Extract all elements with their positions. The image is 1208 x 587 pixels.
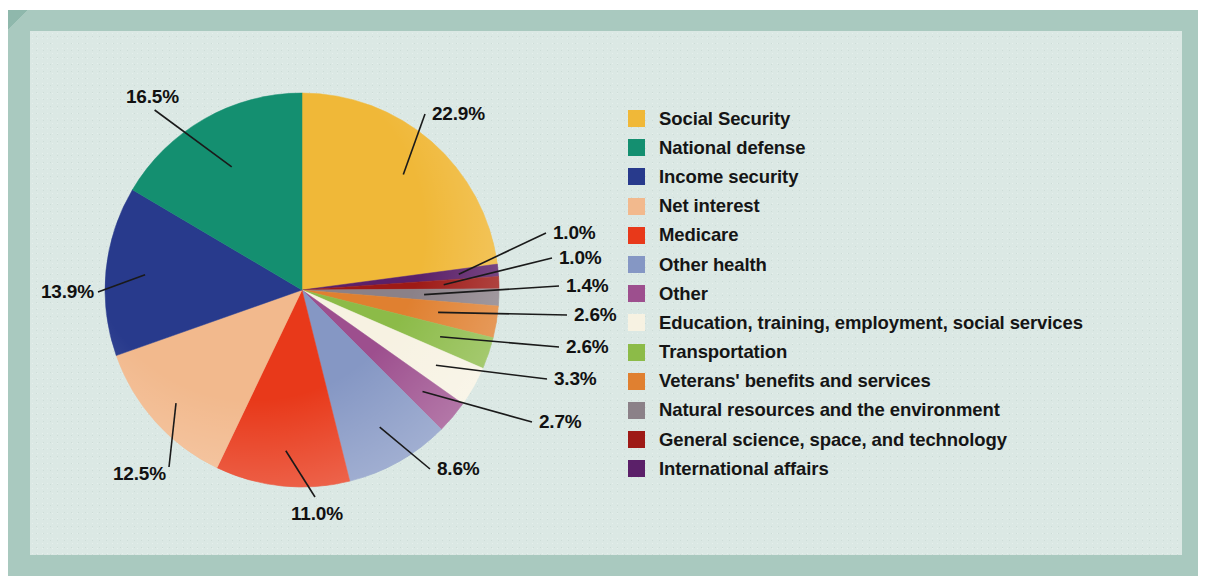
legend-swatch-icon [628,344,645,361]
legend-item-veterans-benefits-and-services[interactable]: Veterans' benefits and services [628,367,1148,396]
legend-item-label: Education, training, employment, social … [659,312,1083,334]
legend-item-label: Net interest [659,195,760,217]
legend-swatch-icon [628,285,645,302]
legend-item-international-affairs[interactable]: International affairs [628,454,1148,483]
legend-item-label: Other [659,283,708,305]
legend-item-other-health[interactable]: Other health [628,250,1148,279]
legend-swatch-icon [628,139,645,156]
legend-swatch-icon [628,198,645,215]
legend-item-label: Transportation [659,341,787,363]
callout-education: 3.3% [554,368,597,390]
callout-social-security: 22.9% [432,103,485,125]
callout-medicare: 11.0% [291,503,343,525]
pie-slice-group [105,93,499,487]
legend-item-national-defense[interactable]: National defense [628,133,1148,162]
legend-swatch-icon [628,460,645,477]
legend-item-education-training-employment-social-services[interactable]: Education, training, employment, social … [628,308,1148,337]
legend-item-label: Natural resources and the environment [659,399,1000,421]
legend-item-label: Social Security [659,108,790,130]
pie-chart-figure: 22.9%16.5%13.9%12.5%11.0%8.6%2.7%3.3%2.6… [0,0,1208,587]
legend-item-label: Medicare [659,224,738,246]
callout-general-science: 1.0% [559,247,602,269]
legend-item-label: Other health [659,254,767,276]
legend-item-label: Veterans' benefits and services [659,370,931,392]
callout-transportation: 2.6% [566,336,609,358]
callout-income-security: 13.9% [41,281,94,303]
callout-international-affairs: 1.0% [553,222,596,244]
legend-item-income-security[interactable]: Income security [628,162,1148,191]
legend-item-natural-resources-and-the-environment[interactable]: Natural resources and the environment [628,396,1148,425]
callout-net-interest: 12.5% [113,463,166,485]
callout-other: 2.7% [539,411,582,433]
legend-item-label: International affairs [659,458,829,480]
legend-item-social-security[interactable]: Social Security [628,104,1148,133]
legend-swatch-icon [628,431,645,448]
legend-item-medicare[interactable]: Medicare [628,221,1148,250]
legend-swatch-icon [628,168,645,185]
callout-veterans: 2.6% [574,304,617,326]
legend-item-label: General science, space, and technology [659,429,1007,451]
callout-natural-resources: 1.4% [566,275,609,297]
legend-swatch-icon [628,402,645,419]
callout-other-health: 8.6% [437,458,480,480]
callout-national-defense: 16.5% [126,86,179,108]
legend-swatch-icon [628,256,645,273]
legend-item-net-interest[interactable]: Net interest [628,192,1148,221]
legend-swatch-icon [628,373,645,390]
legend-swatch-icon [628,227,645,244]
chart-legend: Social SecurityNational defenseIncome se… [628,104,1148,483]
legend-item-label: Income security [659,166,798,188]
legend-swatch-icon [628,110,645,127]
legend-item-label: National defense [659,137,805,159]
legend-item-other[interactable]: Other [628,279,1148,308]
legend-swatch-icon [628,314,645,331]
legend-item-general-science-space-and-technology[interactable]: General science, space, and technology [628,425,1148,454]
pie-shading-overlay [105,93,499,487]
legend-item-transportation[interactable]: Transportation [628,338,1148,367]
